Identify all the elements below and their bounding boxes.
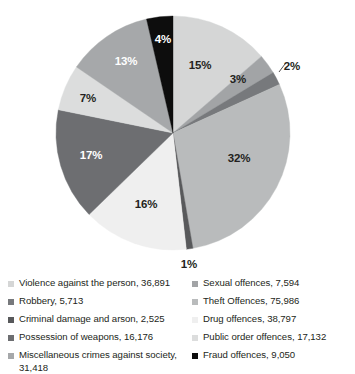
legend-item[interactable]: Sexual offences, 7,594 [192, 277, 355, 290]
legend-swatch-icon [8, 299, 14, 305]
legend-swatch-icon [8, 353, 14, 359]
leader-line-icon [279, 64, 285, 72]
legend-item-label: Fraud offences, 9,050 [203, 349, 295, 362]
legend-swatch-icon [8, 335, 14, 341]
legend-item[interactable]: Fraud offences, 9,050 [192, 349, 355, 362]
legend-swatch-icon [192, 281, 198, 287]
legend-item-label: Public order offences, 17,132 [203, 331, 326, 344]
legend-swatch-icon [192, 299, 198, 305]
pie-chart-figure: 15%3%2%32%1%16%17%7%13%4% Violence again… [0, 0, 355, 374]
legend-swatch-icon [192, 353, 198, 359]
legend-item[interactable]: Criminal damage and arson, 2,525 [8, 313, 186, 326]
legend-item[interactable]: Violence against the person, 36,891 [8, 277, 186, 290]
legend-item-label: Theft Offences, 75,986 [203, 295, 299, 308]
legend-item[interactable]: Drug offences, 38,797 [192, 313, 355, 326]
legend-item-label: Drug offences, 38,797 [203, 313, 296, 326]
legend-item-label: Robbery, 5,713 [19, 295, 83, 308]
legend-swatch-icon [192, 335, 198, 341]
pie-chart-svg [0, 0, 355, 270]
legend-item[interactable]: Theft Offences, 75,986 [192, 295, 355, 308]
pie-leader-lines-group [279, 64, 285, 72]
legend-item-label: Criminal damage and arson, 2,525 [19, 313, 165, 326]
legend-swatch-icon [8, 317, 14, 323]
pie-chart-plot-area: 15%3%2%32%1%16%17%7%13%4% [0, 0, 355, 270]
pie-slices-group [56, 16, 290, 250]
legend-item-label: Sexual offences, 7,594 [203, 277, 299, 290]
legend-item[interactable]: Public order offences, 17,132 [192, 331, 355, 344]
legend-item[interactable]: Possession of weapons, 16,176 [8, 331, 186, 344]
legend-swatch-icon [192, 317, 198, 323]
legend-item-label: Possession of weapons, 16,176 [19, 331, 153, 344]
chart-legend: Violence against the person, 36,891Robbe… [0, 277, 355, 374]
legend-column-right: Sexual offences, 7,594Theft Offences, 75… [192, 277, 355, 367]
legend-column-left: Violence against the person, 36,891Robbe… [8, 277, 186, 374]
legend-item[interactable]: Robbery, 5,713 [8, 295, 186, 308]
legend-item-label: Miscellaneous crimes against society, 31… [19, 349, 186, 374]
legend-swatch-icon [8, 281, 14, 287]
legend-item[interactable]: Miscellaneous crimes against society, 31… [8, 349, 186, 374]
legend-item-label: Violence against the person, 36,891 [19, 277, 170, 290]
